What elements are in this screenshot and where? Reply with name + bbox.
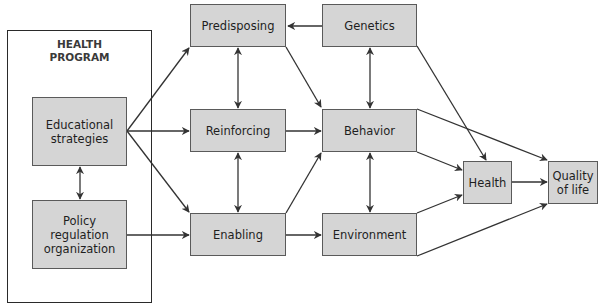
node-policy-regulation-organization: Policy regulation organization <box>32 200 127 269</box>
health-program-title: HEALTH PROGRAM <box>7 38 152 64</box>
node-educational-strategies: Educational strategies <box>32 97 127 166</box>
arrow-environment-quality <box>417 204 547 256</box>
node-behavior: Behavior <box>322 109 417 152</box>
arrow-behavior-health <box>417 152 462 170</box>
node-reinforcing: Reinforcing <box>190 109 286 152</box>
node-enabling: Enabling <box>190 213 286 256</box>
node-predisposing: Predisposing <box>190 4 286 47</box>
arrow-enabling-behavior <box>286 153 321 213</box>
arrow-environment-health <box>417 195 462 213</box>
node-quality-of-life: Quality of life <box>548 161 598 204</box>
node-health: Health <box>463 161 512 204</box>
arrow-genetics-health <box>417 46 486 160</box>
node-environment: Environment <box>322 213 417 256</box>
node-genetics: Genetics <box>322 4 417 47</box>
arrow-predisposing-behavior <box>286 47 321 107</box>
